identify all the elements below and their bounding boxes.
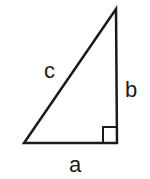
right-angle-marker xyxy=(103,127,117,143)
triangle xyxy=(24,9,117,143)
right-triangle-diagram: c b a xyxy=(0,0,150,179)
label-leg-b: b xyxy=(125,77,137,102)
label-leg-a: a xyxy=(69,152,82,177)
label-hypotenuse-c: c xyxy=(44,58,55,83)
